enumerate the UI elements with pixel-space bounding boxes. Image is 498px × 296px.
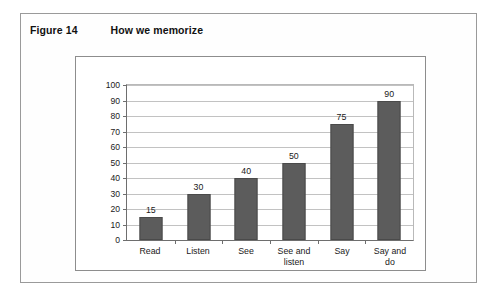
bar[interactable] xyxy=(187,194,210,241)
bar-column[interactable]: 30 xyxy=(175,85,223,240)
bar-value-label: 90 xyxy=(384,89,394,99)
bar-value-label: 75 xyxy=(337,112,347,122)
y-axis-tick-label: 30 xyxy=(110,189,120,199)
x-axis-category-label: See andlisten xyxy=(270,246,318,268)
bar-column[interactable]: 15 xyxy=(127,85,175,240)
bar-column[interactable]: 50 xyxy=(270,85,318,240)
y-axis-tick xyxy=(123,240,127,241)
x-axis-tick xyxy=(222,240,223,244)
figure-caption: Figure 14How we memorize xyxy=(30,24,203,36)
y-axis-tick-label: 60 xyxy=(110,142,120,152)
y-axis-tick-label: 90 xyxy=(110,96,120,106)
figure-title: How we memorize xyxy=(111,24,204,36)
y-axis-tick-label: 70 xyxy=(110,127,120,137)
x-axis-tick xyxy=(365,240,366,244)
y-axis-tick-label: 80 xyxy=(110,111,120,121)
x-axis-tick xyxy=(175,240,176,244)
bars-layer: 153040507590 xyxy=(127,85,413,240)
bar[interactable] xyxy=(235,178,258,240)
y-axis-tick-label: 0 xyxy=(115,235,120,245)
x-axis-category-label: Say xyxy=(318,246,366,268)
x-axis-category-label-line: Say xyxy=(318,246,366,257)
bar-value-label: 30 xyxy=(194,182,204,192)
y-axis-tick-label: 50 xyxy=(110,158,120,168)
x-axis-category-label: Say anddo xyxy=(366,246,414,268)
x-axis-category-label-line: Say and xyxy=(366,246,414,257)
figure-frame: Figure 14How we memorize 010203040506070… xyxy=(20,13,477,283)
x-axis-category-label-line: Read xyxy=(126,246,174,257)
y-axis-tick-label: 40 xyxy=(110,173,120,183)
bar[interactable] xyxy=(139,217,162,240)
bar-column[interactable]: 40 xyxy=(222,85,270,240)
bar-column[interactable]: 75 xyxy=(318,85,366,240)
x-axis-category-label: See xyxy=(222,246,270,268)
bar[interactable] xyxy=(378,101,401,241)
y-axis-tick-label: 100 xyxy=(106,80,120,90)
x-axis-category-label-line: do xyxy=(366,257,414,268)
x-axis-category-label-line: See xyxy=(222,246,270,257)
bar[interactable] xyxy=(330,124,353,240)
y-axis-tick-label: 20 xyxy=(110,204,120,214)
x-axis-labels: ReadListenSeeSee andlistenSaySay anddo xyxy=(126,246,414,268)
x-axis-tick xyxy=(318,240,319,244)
x-axis-category-label-line: See and xyxy=(270,246,318,257)
x-axis-category-label: Listen xyxy=(174,246,222,268)
bar-value-label: 15 xyxy=(146,205,156,215)
x-axis-category-label-line: Listen xyxy=(174,246,222,257)
bar-column[interactable]: 90 xyxy=(365,85,413,240)
chart-container: 0102030405060708090100 153040507590 Read… xyxy=(75,56,426,271)
bar-value-label: 40 xyxy=(241,166,251,176)
plot-area: 0102030405060708090100 153040507590 xyxy=(126,84,414,241)
bar[interactable] xyxy=(282,163,305,241)
figure-number-label: Figure 14 xyxy=(30,24,78,36)
x-axis-tick xyxy=(270,240,271,244)
x-axis-category-label: Read xyxy=(126,246,174,268)
x-axis-category-label-line: listen xyxy=(270,257,318,268)
y-axis-tick-label: 10 xyxy=(110,220,120,230)
bar-value-label: 50 xyxy=(289,151,299,161)
